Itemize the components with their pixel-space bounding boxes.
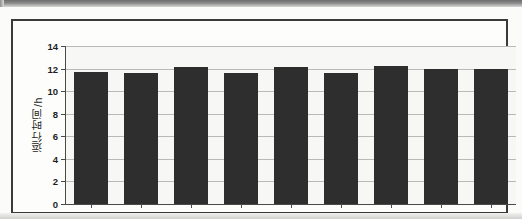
x-axis-tick-mark [191, 204, 192, 208]
x-axis-tick-mark [141, 204, 142, 208]
bar-slot [316, 46, 366, 204]
y-axis-tick-label: 12 [47, 63, 58, 74]
bar [274, 67, 308, 204]
x-axis-tick-mark [241, 204, 242, 208]
y-axis-tick-label: 2 [53, 176, 58, 187]
figure-frame: 运行时间/h 02468101214 201020112012201320142… [11, 19, 508, 214]
bar-slot [416, 46, 466, 204]
x-axis-tick-mark [91, 204, 92, 208]
x-axis-tick-mark [441, 204, 442, 208]
y-axis-tick-label: 8 [53, 108, 58, 119]
y-axis-tick-label: 6 [53, 131, 58, 142]
bar [374, 66, 408, 204]
bar-slot [66, 46, 116, 204]
scan-artifact-top-band [0, 0, 522, 7]
bar-slot [116, 46, 166, 204]
document-page-surface: 运行时间/h 02468101214 201020112012201320142… [0, 7, 522, 219]
x-axis-tick-mark [291, 204, 292, 208]
y-axis-tick-label: 10 [47, 86, 58, 97]
bars-layer [66, 46, 516, 204]
bar-slot [216, 46, 266, 204]
scan-artifact-bottom-band [0, 213, 522, 219]
bar [474, 69, 508, 204]
bar [174, 67, 208, 204]
bar-slot [166, 46, 216, 204]
y-axis-tick-label: 0 [53, 199, 58, 210]
bar-slot [366, 46, 416, 204]
y-axis-tick-label: 14 [47, 41, 58, 52]
bar [74, 72, 108, 204]
x-axis-tick-mark [491, 204, 492, 208]
bar-slot [466, 46, 516, 204]
bar-slot [266, 46, 316, 204]
y-axis-title: 运行时间/h [29, 46, 45, 204]
plot-area: 02468101214 2010201120122013201420152016… [65, 46, 516, 205]
bar [224, 73, 258, 204]
bar [324, 73, 358, 204]
y-axis-tick-mark [61, 204, 66, 205]
bar [124, 73, 158, 204]
x-axis-tick-mark [391, 204, 392, 208]
x-axis-tick-mark [341, 204, 342, 208]
bar [424, 69, 458, 204]
y-axis-tick-label: 4 [53, 153, 58, 164]
